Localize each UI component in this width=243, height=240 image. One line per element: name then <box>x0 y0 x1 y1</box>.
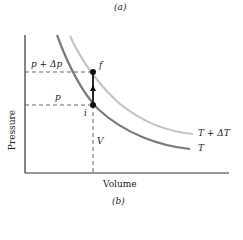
label-p: p <box>55 92 61 102</box>
caption-b: (b) <box>112 196 125 206</box>
point-i <box>90 102 96 108</box>
label-p-plus-dp: p + Δp <box>31 59 62 69</box>
point-f <box>90 69 96 75</box>
arrow-up-icon <box>90 85 96 91</box>
label-v: V <box>97 136 104 146</box>
label-i: i <box>84 108 87 118</box>
y-axis-label: Pressure <box>7 110 17 150</box>
label-f: f <box>99 60 102 70</box>
isotherm-t-plus-dt <box>70 36 193 134</box>
isotherm-t <box>57 35 190 149</box>
x-axis-label: Volume <box>103 179 137 189</box>
label-t: T <box>198 143 204 153</box>
label-t-plus-dt: T + ΔT <box>198 128 230 138</box>
